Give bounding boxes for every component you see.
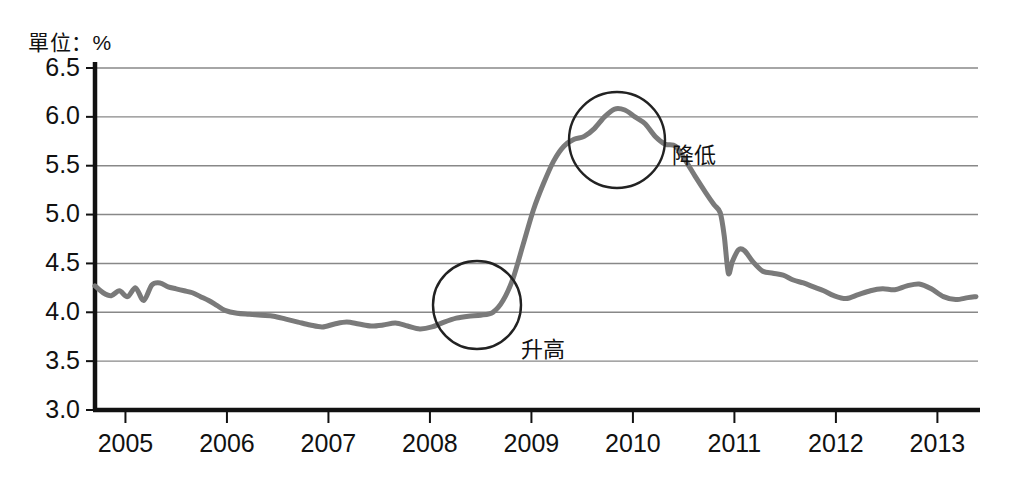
x-tick-label: 2008 — [402, 429, 458, 457]
unemployment-rate-chart: 單位：% 3.03.54.04.55.05.56.06.5 2005200620… — [0, 0, 1024, 485]
x-tick-label: 2011 — [708, 429, 762, 457]
x-tick-label: 2006 — [199, 429, 255, 457]
chart-plot-area: 3.03.54.04.55.05.56.06.5 200520062007200… — [0, 0, 1024, 485]
x-tick-label: 2007 — [301, 429, 357, 457]
y-tick-label: 5.5 — [45, 150, 80, 178]
x-tick-labels-group: 200520062007200820092010201120122013 — [98, 429, 966, 457]
y-tick-label: 6.0 — [45, 101, 80, 129]
data-series-group — [95, 109, 976, 329]
y-tick-label: 5.0 — [45, 199, 80, 227]
y-tick-label: 4.0 — [45, 297, 80, 325]
x-tick-label: 2010 — [605, 429, 661, 457]
x-tick-label: 2009 — [504, 429, 560, 457]
y-tick-label: 4.5 — [45, 248, 80, 276]
y-tick-label: 6.5 — [45, 53, 80, 81]
x-tick-label: 2005 — [98, 429, 154, 457]
y-tick-label: 3.5 — [45, 346, 80, 374]
data-series-line — [95, 109, 976, 329]
annotation-label-fall: 降低 — [672, 143, 716, 168]
y-tick-labels-group: 3.03.54.04.55.05.56.06.5 — [45, 53, 80, 423]
annotation-label-rise: 升高 — [521, 337, 565, 362]
annotation-circle-rise — [433, 261, 521, 349]
x-tick-label: 2012 — [808, 429, 864, 457]
y-tick-label: 3.0 — [45, 395, 80, 423]
x-tick-label: 2013 — [910, 429, 966, 457]
annotations-group: 升高降低 — [433, 92, 716, 362]
